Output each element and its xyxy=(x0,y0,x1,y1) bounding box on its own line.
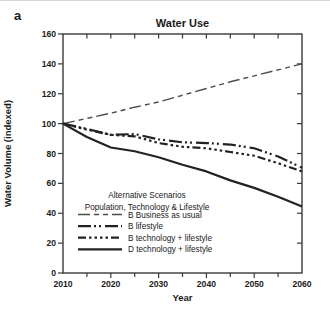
y-tick-label: 120 xyxy=(42,89,57,99)
y-tick-label: 0 xyxy=(51,268,56,278)
legend-label-b-lifestyle: B lifestyle xyxy=(128,222,163,231)
legend-title-line1: Alternative Scenarios xyxy=(108,191,185,200)
series-line-b-lifestyle xyxy=(63,124,302,168)
series-line-b-business-as-usual xyxy=(63,64,302,124)
y-tick-label: 80 xyxy=(46,149,56,159)
panel-label: a xyxy=(14,8,22,23)
y-tick-label: 100 xyxy=(42,119,57,129)
legend-label-b-technology-lifestyle: B technology + lifestyle xyxy=(128,234,212,243)
y-tick-label: 40 xyxy=(46,208,56,218)
water-use-figure: a Water Use Water Volume (indexed) Year … xyxy=(0,0,330,319)
x-tick-label: 2020 xyxy=(101,279,120,289)
x-axis-label: Year xyxy=(172,292,192,303)
chart-canvas: a Water Use Water Volume (indexed) Year … xyxy=(0,1,330,319)
y-axis-label: Water Volume (indexed) xyxy=(2,100,13,207)
legend: Alternative Scenarios Population, Techno… xyxy=(78,191,213,254)
y-tick-label: 140 xyxy=(42,59,57,69)
x-tick-label: 2030 xyxy=(149,279,168,289)
series-lines xyxy=(63,64,302,207)
legend-label-d-technology-lifestyle: D technology + lifestyle xyxy=(128,245,213,254)
x-tick-label: 2010 xyxy=(53,279,72,289)
y-tick-label: 160 xyxy=(42,29,57,39)
y-tick-label: 20 xyxy=(46,238,56,248)
y-tick-label: 60 xyxy=(46,178,56,188)
legend-items: B Business as usualB lifestyleB technolo… xyxy=(78,211,213,255)
x-tick-label: 2040 xyxy=(197,279,216,289)
x-tick-label: 2060 xyxy=(292,279,311,289)
legend-label-b-business-as-usual: B Business as usual xyxy=(128,211,202,220)
x-tick-label: 2050 xyxy=(245,279,264,289)
chart-title: Water Use xyxy=(156,17,209,29)
